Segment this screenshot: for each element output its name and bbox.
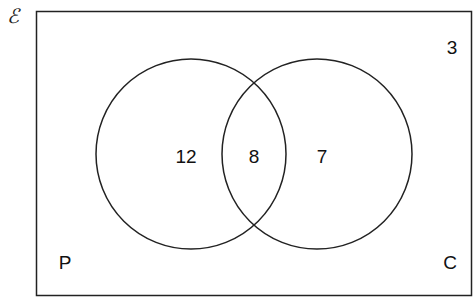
set-p-label: P xyxy=(59,253,72,272)
venn-diagram xyxy=(0,0,476,297)
p-only-count: 12 xyxy=(175,147,196,166)
outside-count: 3 xyxy=(447,38,458,57)
universal-set-symbol: ℰ xyxy=(7,6,19,26)
intersection-count: 8 xyxy=(249,147,260,166)
c-only-count: 7 xyxy=(317,147,328,166)
set-c-label: C xyxy=(443,253,457,272)
